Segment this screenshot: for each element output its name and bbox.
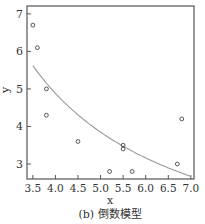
data-point [121, 147, 125, 151]
y-tick-label: 7 [16, 8, 23, 21]
x-tick-label: 5.0 [92, 182, 109, 194]
x-tick-label: 6.0 [137, 182, 154, 194]
x-tick-label: 4.0 [47, 182, 64, 194]
data-point [45, 113, 49, 117]
x-axis-ticks: 3.54.04.55.05.56.06.57.0 [25, 175, 200, 194]
y-axis-label: y [0, 86, 12, 94]
x-axis-label: x [107, 194, 114, 207]
data-points [31, 23, 184, 173]
data-point [35, 46, 39, 50]
reciprocal-model-chart: 3.54.04.55.05.56.06.57.0 34567 x y (b) 倒… [0, 0, 205, 224]
x-tick-label: 7.0 [182, 182, 199, 194]
data-point [130, 170, 134, 174]
data-point [180, 117, 184, 121]
y-tick-label: 4 [16, 120, 23, 133]
plot-border [27, 6, 194, 179]
fit-curve [33, 66, 191, 177]
data-point [108, 170, 112, 174]
y-tick-label: 5 [16, 83, 23, 96]
x-tick-label: 6.5 [160, 182, 177, 194]
x-tick-label: 5.5 [115, 182, 132, 194]
data-point [31, 23, 35, 27]
data-point [175, 162, 179, 166]
x-tick-label: 4.5 [70, 182, 87, 194]
figure-caption: (b) 倒数模型 [78, 207, 141, 221]
y-axis-ticks: 34567 [16, 8, 31, 171]
plot-frame [27, 6, 194, 179]
data-point [76, 140, 80, 144]
data-point [45, 87, 49, 91]
y-tick-label: 6 [16, 45, 23, 58]
y-tick-label: 3 [16, 158, 23, 171]
reciprocal-fit-line [33, 66, 191, 177]
x-tick-label: 3.5 [25, 182, 42, 194]
